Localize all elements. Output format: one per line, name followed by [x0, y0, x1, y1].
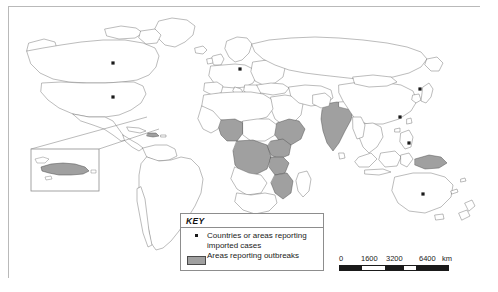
scale-segment-5	[416, 266, 448, 270]
imported-case-dot-united-states	[111, 95, 114, 98]
scale-segment-2	[362, 266, 385, 270]
legend-item-outbreaks: Areas reporting outbreaks	[185, 251, 319, 265]
scale-tick-0: 0	[339, 254, 343, 263]
imported-case-dot-canada	[111, 61, 114, 64]
map-scale-bar: 0 1600 3200 6400 km	[339, 254, 459, 271]
legend-dot-marker	[185, 231, 207, 237]
imported-case-dot-germany	[238, 67, 241, 70]
island-tasmania	[435, 214, 444, 220]
map-legend: KEY Countries or areas reporting importe…	[180, 213, 324, 271]
scale-segment-4	[404, 266, 416, 270]
island-sri-lanka	[339, 153, 345, 159]
legend-item-imported-cases: Countries or areas reporting imported ca…	[185, 231, 319, 250]
legend-swatch-marker	[185, 251, 207, 265]
scale-segment-1	[340, 266, 362, 270]
island-puerto-rico	[161, 135, 166, 137]
imported-case-dot-china	[398, 115, 401, 118]
imported-case-dot-icon	[195, 234, 198, 237]
scale-bar-track	[339, 265, 449, 271]
inset-puerto-rico	[91, 170, 96, 173]
scale-unit-label: km	[442, 254, 452, 263]
scale-segment-3	[385, 266, 404, 270]
outbreak-area-swatch-icon	[187, 256, 206, 265]
scale-tick-3: 6400	[419, 254, 436, 263]
country-ireland	[207, 58, 213, 64]
map-figure: KEY Countries or areas reporting importe…	[0, 0, 498, 292]
map-frame: KEY Countries or areas reporting importe…	[8, 6, 480, 278]
scale-tick-2: 3200	[386, 254, 403, 263]
legend-label-imported-cases: Countries or areas reporting imported ca…	[207, 231, 319, 250]
region-turkey-caucasus	[257, 83, 289, 95]
imported-case-dot-japan	[418, 87, 421, 90]
imported-case-dot-philippines	[407, 141, 410, 144]
imported-case-dot-australia	[421, 192, 424, 195]
island-taiwan	[407, 118, 412, 124]
caribbean-inset	[31, 149, 99, 191]
scale-tick-labels: 0 1600 3200 6400 km	[339, 254, 459, 264]
legend-title: KEY	[181, 214, 323, 227]
scale-tick-1: 1600	[361, 254, 378, 263]
legend-label-outbreaks: Areas reporting outbreaks	[207, 251, 319, 261]
